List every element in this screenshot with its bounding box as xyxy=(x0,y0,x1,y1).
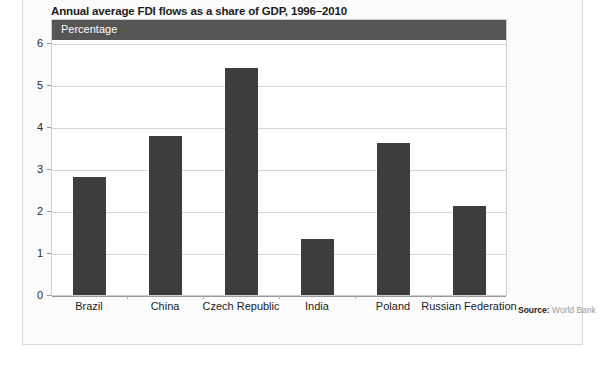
y-tick-label: 1 xyxy=(37,247,43,259)
x-tick-mark xyxy=(355,296,356,299)
x-axis: BrazilChinaCzech RepublicIndiaPolandRuss… xyxy=(51,298,507,338)
y-tick-mark xyxy=(47,295,51,296)
y-tick-mark xyxy=(47,169,51,170)
gridline xyxy=(52,86,506,87)
y-tick-label: 4 xyxy=(37,121,43,133)
y-axis: 0123456 xyxy=(23,19,51,296)
y-tick-mark xyxy=(47,43,51,44)
source-note: Source: World Bank xyxy=(518,305,596,315)
source-value: World Bank xyxy=(552,305,596,315)
x-tick-mark xyxy=(279,296,280,299)
figure-panel: Annual average FDI flows as a share of G… xyxy=(22,0,583,345)
unit-banner-label: Percentage xyxy=(61,23,117,35)
gridline xyxy=(52,212,506,213)
gridline xyxy=(52,254,506,255)
y-tick-mark xyxy=(47,211,51,212)
gridline xyxy=(52,128,506,129)
y-tick-label: 2 xyxy=(37,205,43,217)
y-tick-mark xyxy=(47,253,51,254)
gridline xyxy=(52,44,506,45)
y-tick-mark xyxy=(47,127,51,128)
plot-area: Percentage xyxy=(51,19,507,296)
source-label: Source: xyxy=(518,305,550,315)
unit-banner: Percentage xyxy=(52,20,506,40)
gridline xyxy=(52,170,506,171)
y-tick-mark xyxy=(47,85,51,86)
y-tick-label: 6 xyxy=(37,37,43,49)
x-tick-mark xyxy=(431,296,432,299)
y-tick-label: 5 xyxy=(37,79,43,91)
y-tick-label: 3 xyxy=(37,163,43,175)
x-tick-label: Russian Federation xyxy=(421,300,517,314)
x-tick-mark xyxy=(127,296,128,299)
x-tick-mark xyxy=(203,296,204,299)
chart-title: Annual average FDI flows as a share of G… xyxy=(51,5,347,17)
